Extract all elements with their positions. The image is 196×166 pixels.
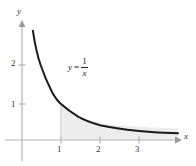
y-tick-label-1: 1	[11, 100, 16, 109]
curve-y-equals-one-over-x	[33, 31, 178, 133]
equation-left-side: y	[68, 63, 72, 72]
curve-equation-annotation: y = 1 x	[68, 57, 88, 78]
equation-numerator: 1	[81, 57, 88, 67]
x-tick-label-1: 1	[57, 145, 62, 154]
x-axis-label: x	[184, 132, 188, 141]
equation-equals-sign: =	[74, 63, 79, 72]
x-tick-label-3: 3	[135, 145, 140, 154]
x-tick-label-2: 2	[96, 145, 101, 154]
figure-graph-one-over-x: y x 1 2 3 2 1 y = 1 x	[0, 0, 196, 166]
y-tick-label-2: 2	[11, 59, 16, 68]
equation-denominator: x	[82, 68, 88, 78]
y-axis-label: y	[17, 7, 21, 16]
shaded-area-under-curve	[61, 104, 178, 140]
x-axis-arrowhead	[175, 137, 182, 144]
equation-fraction: 1 x	[81, 57, 88, 78]
plot-canvas	[0, 0, 196, 166]
y-axis-arrowhead	[19, 20, 26, 27]
